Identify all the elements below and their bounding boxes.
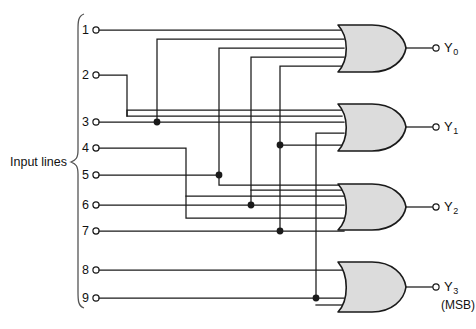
- input-label-5: 5: [82, 169, 89, 182]
- wire-input-5-branch-up-to-y0: [219, 48, 344, 175]
- output-label-y3-sub: 3: [453, 286, 458, 296]
- input-terminal-8[interactable]: [93, 267, 99, 273]
- output-label-y3-base: Y: [444, 279, 453, 294]
- input-terminal-4[interactable]: [93, 145, 99, 151]
- or-gate-y0[interactable]: [338, 25, 406, 72]
- output-label-y1-base: Y: [444, 119, 453, 134]
- input-label-3: 3: [82, 116, 89, 129]
- input-label-6: 6: [82, 199, 89, 212]
- input-label-8: 8: [82, 264, 89, 277]
- junction-input-9: [313, 295, 320, 302]
- output-label-y2-base: Y: [444, 199, 453, 214]
- decimal-to-bcd-encoder-diagram: 1 2 3 4 5 6 7 8 9 Input lines Y0 Y1 Y2 Y…: [0, 0, 476, 329]
- input-terminal-3[interactable]: [93, 119, 99, 125]
- junction-input-6: [248, 202, 255, 209]
- circuit-schematic: [0, 0, 476, 329]
- input-terminal-2[interactable]: [93, 72, 99, 78]
- output-terminal-y2[interactable]: [433, 204, 439, 210]
- input-terminal-1[interactable]: [93, 27, 99, 33]
- output-terminal-y0[interactable]: [433, 45, 439, 51]
- output-label-y1: Y1: [444, 120, 458, 133]
- output-label-y1-sub: 1: [453, 126, 458, 136]
- wire-trunk-to-y1-a: [127, 110, 344, 116]
- output-label-y0-base: Y: [444, 40, 453, 55]
- output-label-y0-sub: 0: [453, 47, 458, 57]
- wire-input-7-branch-up-to-y0: [280, 66, 344, 231]
- wire-input-9-branch-up: [316, 133, 344, 298]
- or-gate-y1[interactable]: [338, 104, 406, 151]
- output-label-y2: Y2: [444, 200, 458, 213]
- input-terminal-7[interactable]: [93, 228, 99, 234]
- output-label-y3: Y3: [444, 280, 458, 293]
- junction-input-3: [154, 119, 161, 126]
- output-terminal-y3[interactable]: [433, 284, 439, 290]
- or-gate-y3[interactable]: [338, 262, 406, 312]
- input-label-2: 2: [82, 69, 89, 82]
- input-lines-label: Input lines: [10, 156, 67, 169]
- input-terminal-9[interactable]: [93, 295, 99, 301]
- input-terminal-5[interactable]: [93, 172, 99, 178]
- msb-note: (MSB): [441, 299, 475, 311]
- input-label-7: 7: [82, 225, 89, 238]
- input-terminal-6[interactable]: [93, 202, 99, 208]
- input-label-9: 9: [82, 292, 89, 305]
- junction-input-7-lower: [277, 228, 284, 235]
- output-terminal-y1[interactable]: [433, 124, 439, 130]
- input-label-4: 4: [82, 142, 89, 155]
- wire-input-6-branch-up-to-y0: [251, 57, 344, 205]
- wire-input-4-to-y2: [99, 148, 344, 218]
- output-label-y2-sub: 2: [453, 206, 458, 216]
- input-label-1: 1: [82, 24, 89, 37]
- junction-input-5: [216, 172, 223, 179]
- or-gate-y2[interactable]: [338, 184, 406, 230]
- output-label-y0: Y0: [444, 41, 458, 54]
